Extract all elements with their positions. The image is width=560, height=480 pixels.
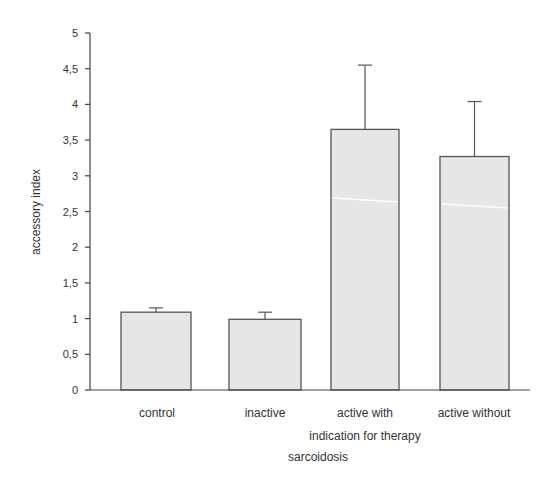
- y-tick-label: 0,5: [63, 348, 78, 360]
- bar-3: [440, 102, 509, 390]
- y-tick-label: 0: [72, 384, 78, 396]
- bar-rect: [121, 312, 191, 390]
- category-label: active with: [337, 406, 393, 420]
- y-axis-ticks: 00,511,522,533,544,55: [63, 27, 90, 396]
- y-tick-label: 1,5: [63, 277, 78, 289]
- y-tick-label: 3: [72, 170, 78, 182]
- y-tick-label: 1: [72, 313, 78, 325]
- bar-0: [121, 308, 191, 390]
- category-labels: controlinactiveactive withactive without: [139, 406, 511, 420]
- category-group-label: indication for therapy: [309, 429, 420, 443]
- bar-rect: [440, 157, 509, 390]
- bar-rect: [229, 319, 301, 390]
- y-axis-title: accessory index: [29, 169, 43, 255]
- category-label: control: [139, 406, 175, 420]
- y-tick-label: 4,5: [63, 63, 78, 75]
- y-tick-label: 2,5: [63, 206, 78, 218]
- bar-2: [331, 65, 399, 390]
- category-label: inactive: [245, 406, 286, 420]
- bars: [121, 65, 509, 390]
- y-tick-label: 4: [72, 98, 78, 110]
- bar-rect: [331, 129, 399, 390]
- y-tick-label: 2: [72, 241, 78, 253]
- x-axis-title: sarcoidosis: [288, 450, 348, 464]
- y-tick-label: 3,5: [63, 134, 78, 146]
- y-tick-label: 5: [72, 27, 78, 39]
- bar-chart: 00,511,522,533,544,55 controlinactiveact…: [0, 0, 560, 480]
- category-label: active without: [438, 406, 511, 420]
- bar-1: [229, 312, 301, 390]
